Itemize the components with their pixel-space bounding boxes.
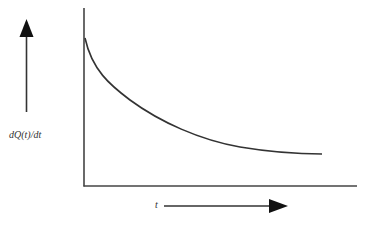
decay-curve <box>85 38 322 154</box>
y-axis-label: dQ(t)/dt <box>9 129 41 140</box>
decay-diagram <box>0 0 366 228</box>
y-direction-arrow <box>20 19 34 112</box>
x-direction-arrow <box>164 199 288 213</box>
x-axis-label: t <box>155 199 158 210</box>
